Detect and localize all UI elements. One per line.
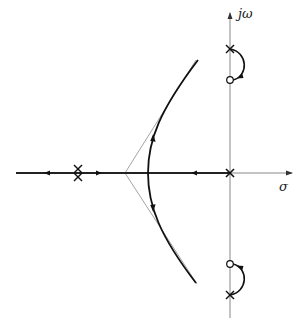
zero-upper-icon: [227, 77, 234, 84]
asymptotes: [125, 60, 197, 284]
locus-branch-upper: [148, 60, 198, 173]
zero-lower-icon: [227, 261, 234, 268]
arrow-left-icon: [191, 171, 197, 176]
locus-branch-lower: [148, 173, 196, 283]
arrow-right-icon: [96, 171, 102, 176]
arrow-left-icon: [44, 171, 50, 176]
real-axis-label: σ: [279, 179, 289, 194]
root-locus-plot: jω σ: [0, 0, 305, 333]
imag-axis-label: jω: [235, 6, 253, 21]
